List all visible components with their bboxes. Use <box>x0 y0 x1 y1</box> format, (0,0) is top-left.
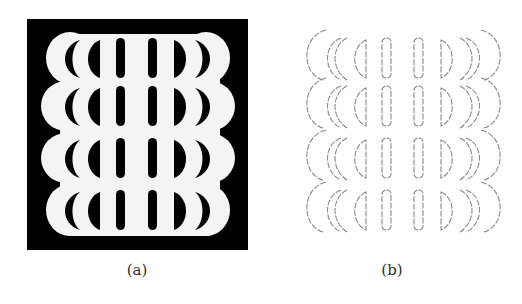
panel-b: (b) <box>261 0 522 304</box>
edge-map-image <box>261 0 522 304</box>
panel-a: (a) <box>0 0 261 304</box>
caption-a: (a) <box>107 261 167 279</box>
binary-shape-image <box>0 0 261 304</box>
caption-b: (b) <box>362 261 422 279</box>
